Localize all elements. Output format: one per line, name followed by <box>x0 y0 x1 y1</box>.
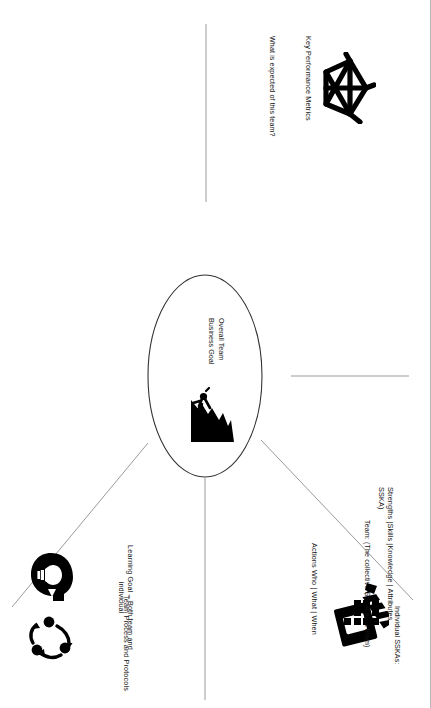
brick-accent-icon <box>363 580 379 596</box>
kpi-title: Key Performance Metrics <box>304 36 313 246</box>
canvas-root: Overall Team Business Goal Key Performan… <box>0 0 431 708</box>
rock-climber-icon <box>190 386 235 442</box>
strengths-individual-line: Individual SSKAs: <box>392 606 401 708</box>
kpi-subtitle: What is expected of this team? <box>267 36 276 256</box>
cycle-arrows-icon <box>23 610 79 668</box>
process-title: Team Process and Protocols <box>122 595 131 708</box>
actions-title: Actions Who | What | When <box>310 543 319 703</box>
brick-grid-icon <box>339 600 379 634</box>
radar-web-icon <box>318 52 376 124</box>
head-lightbulb-icon <box>26 545 76 605</box>
hub-ellipse <box>148 275 262 477</box>
